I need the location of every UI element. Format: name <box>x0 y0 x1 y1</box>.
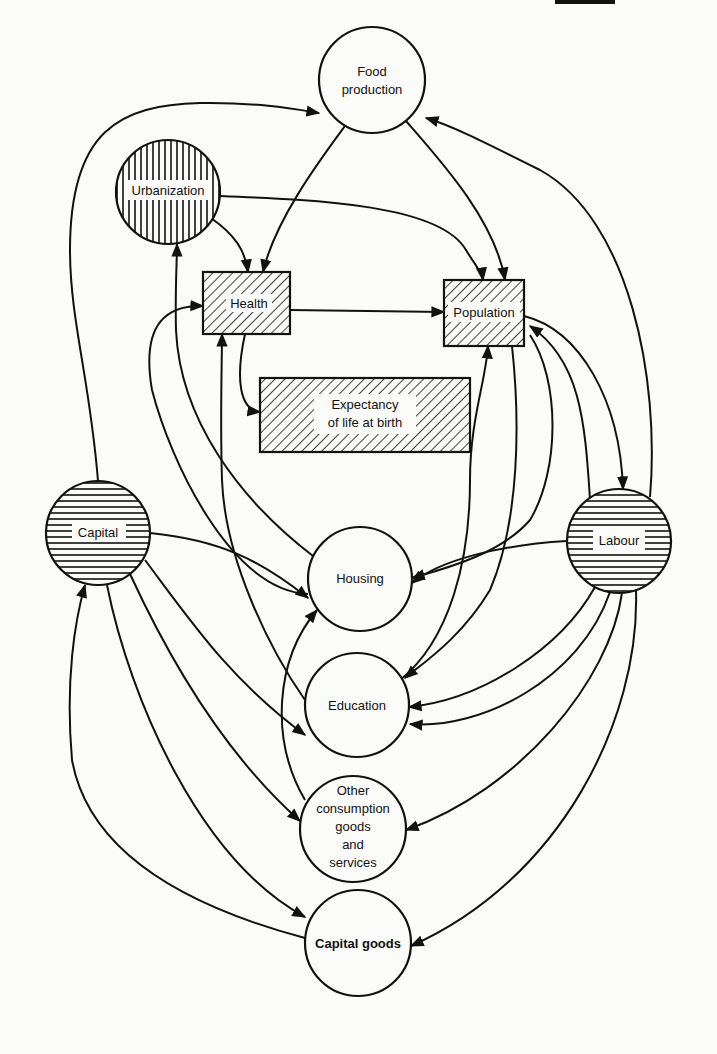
edge-capitalgoods-to-capital <box>70 585 305 938</box>
edge-population-to-housing <box>412 335 553 578</box>
node-life-expectancy: Expectancy of life at birth <box>260 378 470 452</box>
expectancy-label-line1: Expectancy <box>331 397 399 412</box>
edge-urban-to-population <box>220 196 483 280</box>
population-label: Population <box>453 305 514 320</box>
education-label: Education <box>328 698 386 713</box>
health-label: Health <box>230 296 268 311</box>
edge-labour-to-education <box>409 587 595 707</box>
node-urbanization: Urbanization <box>116 140 220 244</box>
other-label-line2: consumption <box>316 801 390 816</box>
expectancy-label-line2: of life at birth <box>328 415 402 430</box>
food-label-line2: production <box>342 82 403 97</box>
edge-health-to-expectancy <box>240 334 260 412</box>
node-labour: Labour <box>567 489 671 593</box>
edge-population-to-labour <box>524 316 623 489</box>
edge-labour-to-education-2 <box>410 592 610 724</box>
edge-capital-to-other <box>130 574 300 821</box>
node-housing: Housing <box>308 527 412 631</box>
node-other-consumption: Other consumption goods and services <box>300 776 406 882</box>
node-capital-goods: Capital goods <box>305 890 411 996</box>
edge-labour-to-other <box>406 593 622 830</box>
node-food-production: Food production <box>319 27 425 133</box>
food-label-line1: Food <box>357 64 387 79</box>
other-label-line5: services <box>329 855 377 870</box>
other-label-line4: and <box>342 837 364 852</box>
capital-goods-label: Capital goods <box>315 936 401 951</box>
other-label-line3: goods <box>335 819 371 834</box>
housing-label: Housing <box>336 571 384 586</box>
edge-capital-to-capitalgoods <box>107 585 305 917</box>
edge-labour-to-housing <box>412 541 567 583</box>
node-education: Education <box>305 653 409 757</box>
edge-urban-to-health <box>211 218 248 272</box>
node-health: Health <box>203 272 290 334</box>
edge-health-to-population <box>290 310 444 312</box>
urbanization-label: Urbanization <box>132 183 205 198</box>
labour-label: Labour <box>599 533 640 548</box>
system-diagram: Food production Urbanization Health Popu… <box>0 0 717 1054</box>
node-population: Population <box>444 280 524 346</box>
node-capital: Capital <box>46 481 150 585</box>
capital-label: Capital <box>78 525 119 540</box>
other-label-line1: Other <box>337 783 370 798</box>
